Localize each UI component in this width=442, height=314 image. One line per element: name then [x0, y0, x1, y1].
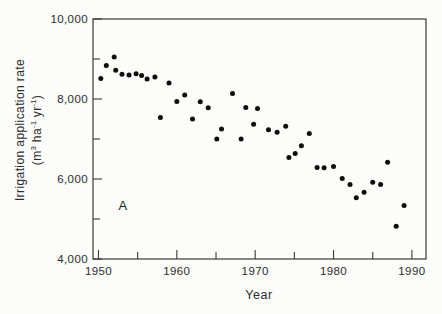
data-point [251, 122, 256, 127]
unit-superscript: -1 [29, 99, 38, 106]
x-tick-label: 1950 [76, 264, 120, 278]
data-point [120, 72, 125, 77]
data-point [190, 117, 195, 122]
axes-frame [93, 19, 426, 259]
data-point [402, 203, 407, 208]
data-point [315, 165, 320, 170]
data-point [206, 105, 211, 110]
data-point [152, 75, 157, 80]
data-point [283, 124, 288, 129]
data-point [275, 130, 280, 135]
data-point [113, 68, 118, 73]
data-point [331, 164, 336, 169]
data-point [219, 127, 224, 132]
y-tick-label: 10,000 [32, 12, 88, 26]
data-point [214, 137, 219, 142]
data-point [134, 71, 139, 76]
y-axis-title-line1: Irrigation application rate [13, 59, 27, 201]
data-point [239, 137, 244, 142]
data-point [322, 165, 327, 170]
data-point [145, 77, 150, 82]
x-tick-label: 1980 [312, 264, 356, 278]
annotation-letter-a: A [118, 198, 127, 213]
data-point [230, 91, 235, 96]
data-point [348, 182, 353, 187]
data-point [167, 81, 172, 86]
data-point [293, 151, 298, 156]
unit-superscript: -1 [29, 121, 38, 128]
data-point [266, 127, 271, 132]
unit-text: (m [30, 150, 44, 165]
data-point [286, 155, 291, 160]
plot-area [0, 0, 442, 314]
data-point [198, 99, 203, 104]
data-point [139, 73, 144, 78]
data-point [354, 195, 359, 200]
x-axis-title: Year [224, 288, 294, 302]
unit-text: ) [30, 95, 44, 99]
data-point [378, 182, 383, 187]
unit-text: yr [30, 106, 44, 121]
data-point [158, 115, 163, 120]
unit-text: ha [30, 128, 44, 146]
data-point [182, 93, 187, 98]
unit-superscript: 3 [29, 146, 38, 150]
data-point [362, 190, 367, 195]
data-point [243, 105, 248, 110]
data-point [255, 106, 260, 111]
scatter-plot-figure: 10,0008,0006,0004,000 195019601970198019… [0, 0, 442, 314]
data-point [112, 55, 117, 60]
x-tick-label: 1990 [390, 264, 434, 278]
data-point [174, 99, 179, 104]
y-axis-title-line2: (m3 ha-1 yr-1) [27, 59, 44, 201]
data-point [299, 143, 304, 148]
x-tick-label: 1960 [155, 264, 199, 278]
data-point [385, 160, 390, 165]
data-point [340, 176, 345, 181]
data-point [370, 180, 375, 185]
x-tick-label: 1970 [233, 264, 277, 278]
data-point [98, 76, 103, 81]
data-point [127, 73, 132, 78]
data-point [394, 224, 399, 229]
data-point [307, 131, 312, 136]
data-point [104, 63, 109, 68]
y-axis-title: Irrigation application rate (m3 ha-1 yr-… [13, 59, 44, 201]
